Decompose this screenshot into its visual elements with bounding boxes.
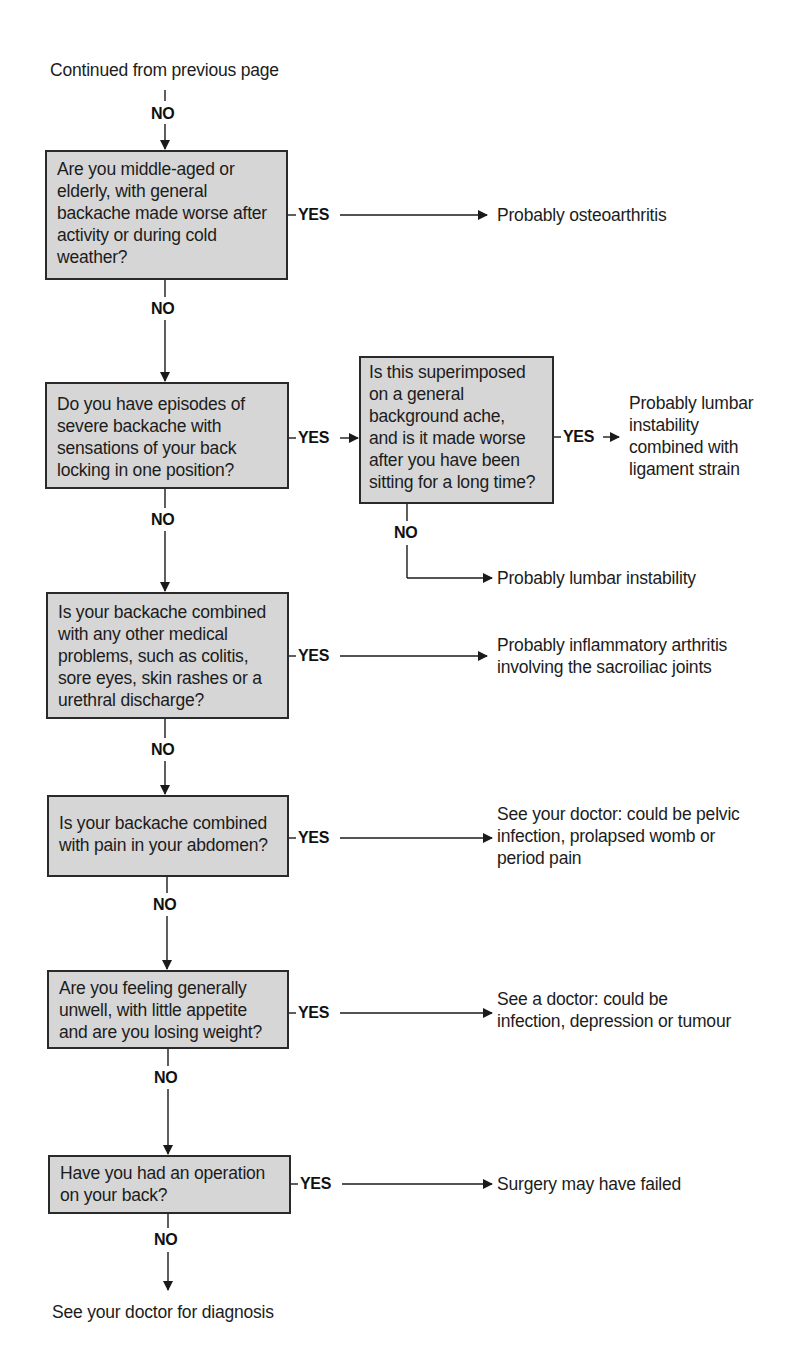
result-text: ligament strain: [629, 458, 753, 480]
question-text: Are you feeling generally: [59, 977, 277, 999]
question-box-q2: Do you have episodes of severe backache …: [45, 382, 289, 489]
question-text: severe backache with: [57, 415, 277, 437]
question-text: sensations of your back: [57, 437, 277, 459]
result-text: combined with: [629, 436, 753, 458]
yes-label: YES: [298, 429, 329, 447]
result-q2a-yes: Probably lumbar instability combined wit…: [629, 392, 753, 480]
question-text: problems, such as colitis,: [58, 645, 277, 667]
result-text: Probably lumbar instability: [497, 567, 696, 589]
result-q3-yes: Probably inflammatory arthritis involvin…: [497, 634, 727, 678]
result-text: Surgery may have failed: [497, 1173, 681, 1195]
question-text: with pain in your abdomen?: [59, 834, 277, 856]
result-text: infection, depression or tumour: [497, 1010, 731, 1032]
yes-label: YES: [298, 1004, 329, 1022]
no-label: NO: [154, 1069, 177, 1087]
result-text: period pain: [497, 847, 740, 869]
question-text: with any other medical: [58, 623, 277, 645]
question-text: Have you had an operation: [60, 1162, 279, 1184]
result-text: involving the sacroiliac joints: [497, 656, 727, 678]
start-label: Continued from previous page: [50, 59, 279, 81]
question-text: and is it made worse: [369, 427, 544, 449]
yes-label: YES: [563, 428, 594, 446]
no-label: NO: [394, 524, 417, 542]
no-label: NO: [151, 741, 174, 759]
result-q2a-no: Probably lumbar instability: [497, 567, 696, 589]
question-text: background ache,: [369, 405, 544, 427]
no-label: NO: [151, 511, 174, 529]
question-text: elderly, with general: [57, 180, 276, 202]
question-text: weather?: [57, 246, 276, 268]
question-text: backache made worse after: [57, 202, 276, 224]
result-q1-yes: Probably osteoarthritis: [497, 204, 667, 226]
result-text: See your doctor: could be pelvic: [497, 803, 740, 825]
question-box-q1: Are you middle-aged or elderly, with gen…: [45, 150, 288, 280]
result-text: Probably osteoarthritis: [497, 204, 667, 226]
no-label: NO: [154, 1231, 177, 1249]
yes-label: YES: [298, 647, 329, 665]
question-text: Are you middle-aged or: [57, 158, 276, 180]
result-text: infection, prolapsed womb or: [497, 825, 740, 847]
question-text: Is your backache combined: [58, 601, 277, 623]
no-label: NO: [151, 105, 174, 123]
question-box-q3: Is your backache combined with any other…: [46, 592, 289, 719]
question-text: sore eyes, skin rashes or a: [58, 667, 277, 689]
question-text: on your back?: [60, 1184, 279, 1206]
no-label: NO: [153, 896, 176, 914]
end-label: See your doctor for diagnosis: [52, 1301, 274, 1323]
question-text: on a general: [369, 383, 544, 405]
result-text: See a doctor: could be: [497, 988, 731, 1010]
result-q4-yes: See your doctor: could be pelvic infecti…: [497, 803, 740, 869]
question-box-q4: Is your backache combined with pain in y…: [47, 795, 289, 877]
result-text: Probably inflammatory arthritis: [497, 634, 727, 656]
question-text: locking in one position?: [57, 459, 277, 481]
question-text: unwell, with little appetite: [59, 999, 277, 1021]
question-text: after you have been: [369, 449, 544, 471]
yes-label: YES: [300, 1175, 331, 1193]
result-q6-yes: Surgery may have failed: [497, 1173, 681, 1195]
question-box-q6: Have you had an operation on your back?: [48, 1155, 291, 1214]
yes-label: YES: [298, 206, 329, 224]
yes-label: YES: [298, 829, 329, 847]
question-text: activity or during cold: [57, 224, 276, 246]
result-q5-yes: See a doctor: could be infection, depres…: [497, 988, 731, 1032]
question-text: and are you losing weight?: [59, 1021, 277, 1043]
question-box-q5: Are you feeling generally unwell, with l…: [47, 970, 289, 1049]
question-text: Is this superimposed: [369, 361, 544, 383]
question-text: Do you have episodes of: [57, 393, 277, 415]
question-box-q2a: Is this superimposed on a general backgr…: [359, 356, 554, 504]
question-text: urethral discharge?: [58, 689, 277, 711]
no-label: NO: [151, 300, 174, 318]
result-text: instability: [629, 414, 753, 436]
question-text: Is your backache combined: [59, 812, 277, 834]
question-text: sitting for a long time?: [369, 471, 544, 493]
result-text: Probably lumbar: [629, 392, 753, 414]
